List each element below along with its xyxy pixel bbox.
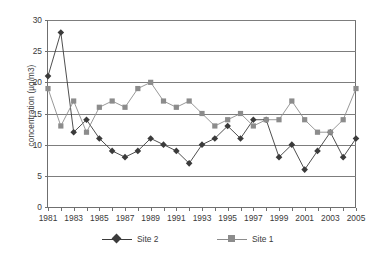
x-axis-label: 1995 — [218, 213, 237, 223]
series-site-2 — [45, 29, 360, 173]
y-axis-label: 15 — [33, 109, 42, 119]
data-point — [84, 130, 89, 135]
x-axis-tick — [125, 208, 126, 211]
x-axis-tick — [87, 208, 88, 211]
x-axis-label: 1981 — [39, 213, 58, 223]
x-axis-label: 2003 — [321, 213, 340, 223]
y-axis-title: concentration (µg/m3) — [27, 11, 36, 201]
x-axis-tick — [99, 208, 100, 211]
x-axis-label: 1983 — [64, 213, 83, 223]
data-point — [302, 117, 307, 122]
x-axis-label: 1991 — [167, 213, 186, 223]
y-axis-label: 25 — [33, 46, 42, 56]
x-axis-tick — [164, 208, 165, 211]
x-axis-tick — [61, 208, 62, 211]
x-axis-tick — [48, 208, 49, 211]
legend-entry-site-2[interactable]: Site 2 — [102, 232, 158, 246]
x-axis-tick — [228, 208, 229, 211]
x-axis-label: 1999 — [270, 213, 289, 223]
y-axis-label: 20 — [33, 77, 42, 87]
x-axis-tick — [266, 208, 267, 211]
x-axis-label: 2005 — [347, 213, 366, 223]
legend-label: Site 1 — [252, 234, 273, 244]
data-point — [174, 105, 179, 110]
data-point — [328, 130, 333, 135]
data-point — [301, 166, 308, 173]
data-point — [161, 98, 166, 103]
y-axis-label: 10 — [33, 140, 42, 150]
y-axis-label: 5 — [37, 171, 42, 181]
x-axis-tick — [215, 208, 216, 211]
x-axis-tick — [189, 208, 190, 211]
data-point — [122, 154, 129, 161]
data-point — [160, 141, 167, 148]
data-point — [353, 135, 360, 142]
x-axis-tick — [356, 208, 357, 211]
y-axis-label: 30 — [33, 15, 42, 25]
plot-area: 051015202530 198119831985198719891991199… — [47, 20, 356, 208]
data-point — [250, 116, 257, 123]
x-axis-tick — [318, 208, 319, 211]
legend-entry-site-1[interactable]: Site 1 — [217, 232, 273, 246]
data-point — [97, 105, 102, 110]
x-axis-tick — [138, 208, 139, 211]
x-axis-tick — [305, 208, 306, 211]
data-point — [251, 123, 256, 128]
x-axis-tick — [253, 208, 254, 211]
x-axis-tick — [112, 208, 113, 211]
data-point — [212, 123, 217, 128]
x-axis-tick — [74, 208, 75, 211]
x-axis-tick — [330, 208, 331, 211]
data-point — [110, 98, 115, 103]
data-point — [45, 86, 50, 91]
x-axis-tick — [343, 208, 344, 211]
data-point — [341, 117, 346, 122]
x-axis-tick — [241, 208, 242, 211]
series-line — [48, 32, 356, 169]
legend-swatch-square-icon — [217, 234, 247, 244]
series-site-1 — [45, 80, 358, 135]
line-chart: concentration (µg/m3) 051015202530 19811… — [0, 0, 382, 255]
data-point — [58, 123, 63, 128]
data-point — [276, 117, 281, 122]
data-point — [225, 117, 230, 122]
data-point — [58, 29, 65, 36]
data-point — [199, 141, 206, 148]
x-axis-tick — [151, 208, 152, 211]
x-axis-tick — [292, 208, 293, 211]
chart-legend: Site 2Site 1 — [47, 232, 355, 248]
data-point — [353, 86, 358, 91]
legend-label: Site 2 — [137, 234, 158, 244]
y-axis-label: 0 — [37, 202, 42, 212]
data-point — [199, 111, 204, 116]
data-point — [122, 105, 127, 110]
series-layer — [48, 20, 356, 207]
data-point — [289, 98, 294, 103]
data-point — [238, 111, 243, 116]
data-point — [340, 154, 347, 161]
x-axis-label: 1989 — [141, 213, 160, 223]
x-axis-label: 1997 — [244, 213, 263, 223]
data-point — [135, 86, 140, 91]
x-axis-tick — [279, 208, 280, 211]
data-point — [187, 98, 192, 103]
data-point — [71, 98, 76, 103]
data-point — [148, 80, 153, 85]
x-axis-label: 1987 — [116, 213, 135, 223]
legend-swatch-diamond-icon — [102, 234, 132, 244]
data-point — [45, 73, 52, 80]
data-point — [315, 130, 320, 135]
x-axis-label: 1985 — [90, 213, 109, 223]
x-axis-label: 2001 — [295, 213, 314, 223]
x-axis-tick — [176, 208, 177, 211]
x-axis-tick — [202, 208, 203, 211]
data-point — [264, 117, 269, 122]
series-line — [48, 82, 356, 132]
x-axis-label: 1993 — [193, 213, 212, 223]
data-point — [314, 148, 321, 155]
